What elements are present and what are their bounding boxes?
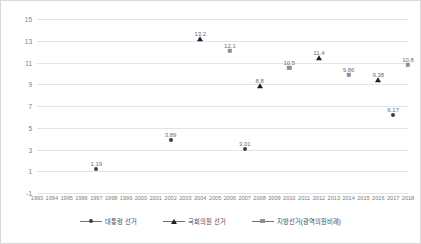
x-axis-tick-label: 2004	[194, 195, 206, 201]
square-marker-icon	[346, 73, 350, 77]
x-axis-tick-label: 2017	[387, 195, 399, 201]
x-axis-line	[37, 193, 408, 194]
x-axis-tick-label: 2018	[402, 195, 414, 201]
square-marker-icon	[228, 48, 232, 52]
data-point: 1.19	[92, 165, 100, 173]
gridline	[37, 106, 408, 107]
y-axis-tick-label: 15	[25, 16, 32, 23]
x-axis-tick-label: 2015	[357, 195, 369, 201]
legend-item[interactable]: 대통령 선거	[80, 217, 137, 226]
data-point-label: 12.1	[224, 43, 236, 49]
legend-item[interactable]: 지방선거(광역의원비례)	[252, 217, 341, 226]
data-point: 8.8	[256, 82, 264, 90]
x-axis-tick-label: 2014	[342, 195, 354, 201]
legend-marker	[80, 221, 102, 222]
gridline	[37, 84, 408, 85]
triangle-marker-icon	[197, 36, 203, 41]
x-axis-tick-label: 2008	[253, 195, 265, 201]
triangle-marker-icon	[171, 219, 177, 224]
x-axis-tick-label: 2005	[209, 195, 221, 201]
x-axis-tick-label: 2009	[268, 195, 280, 201]
data-point: 6.17	[389, 111, 397, 119]
x-axis-tick-label: 2010	[283, 195, 295, 201]
triangle-marker-icon	[375, 77, 381, 82]
x-axis-tick-labels: 1993199419951996199719981999200020012002…	[37, 195, 408, 209]
x-axis-tick-label: 2011	[298, 195, 310, 201]
y-axis-tick-label: 7	[28, 103, 32, 110]
data-point: 10.5	[285, 64, 293, 72]
data-point: 12.1	[226, 47, 234, 55]
circle-marker-icon	[169, 138, 173, 142]
data-point-label: 9.86	[343, 67, 355, 73]
y-axis-tick-label: 11	[25, 59, 32, 66]
square-marker-icon	[260, 219, 264, 223]
x-axis-tick-label: 2000	[135, 195, 147, 201]
square-marker-icon	[287, 66, 291, 70]
square-marker-icon	[406, 62, 410, 66]
data-point: 3.89	[167, 136, 175, 144]
data-point-label: 8.8	[255, 78, 263, 84]
y-axis-tick-label: 1	[28, 168, 32, 175]
data-point: 11.4	[315, 54, 323, 62]
x-axis-tick-label: 1994	[46, 195, 58, 201]
plot-area: 15131197531-1 1.193.893.016.1713.28.811.…	[37, 19, 408, 193]
circle-marker-icon	[89, 219, 93, 223]
x-axis-tick-label: 2006	[224, 195, 236, 201]
gridline	[37, 41, 408, 42]
x-axis-tick-label: 2012	[313, 195, 325, 201]
data-point: 10.8	[404, 61, 412, 69]
y-axis-tick-label: 13	[25, 37, 32, 44]
x-axis-tick-label: 1993	[31, 195, 43, 201]
triangle-marker-icon	[257, 84, 263, 89]
y-axis-tick-label: 3	[28, 146, 32, 153]
data-point: 9.38	[374, 76, 382, 84]
x-axis-tick-label: 1999	[120, 195, 132, 201]
data-point-label: 10.5	[283, 60, 295, 66]
gridline	[37, 150, 408, 151]
legend-marker	[252, 221, 274, 222]
x-axis-tick-label: 1997	[90, 195, 102, 201]
legend-marker	[163, 221, 185, 222]
x-axis-tick-label: 1998	[105, 195, 117, 201]
data-point: 9.86	[345, 71, 353, 79]
triangle-marker-icon	[316, 55, 322, 60]
data-point: 13.2	[196, 35, 204, 43]
data-point-label: 10.8	[402, 57, 414, 63]
circle-marker-icon	[243, 147, 247, 151]
legend-label: 대통령 선거	[105, 217, 137, 226]
chart-container: 15131197531-1 1.193.893.016.1713.28.811.…	[0, 0, 421, 244]
legend-label: 지방선거(광역의원비례)	[277, 217, 341, 226]
circle-marker-icon	[391, 113, 395, 117]
x-axis-tick-label: 2002	[164, 195, 176, 201]
data-point-label: 6.17	[387, 107, 399, 113]
x-axis-tick-label: 2003	[179, 195, 191, 201]
data-point-label: 3.01	[239, 141, 251, 147]
data-point-label: 9.38	[372, 72, 384, 78]
y-axis-tick-label: 5	[28, 124, 32, 131]
legend-label: 국회의원 선거	[188, 217, 226, 226]
legend-item[interactable]: 국회의원 선거	[163, 217, 226, 226]
x-axis-tick-label: 1996	[75, 195, 87, 201]
gridline	[37, 128, 408, 129]
x-axis-tick-label: 2016	[372, 195, 384, 201]
gridline	[37, 63, 408, 64]
y-axis-tick-label: 9	[28, 81, 32, 88]
data-point-label: 11.4	[313, 50, 324, 56]
data-point-label: 1.19	[91, 161, 103, 167]
gridline	[37, 19, 408, 20]
x-axis-tick-label: 2001	[149, 195, 161, 201]
data-point: 3.01	[241, 145, 249, 153]
x-axis-tick-label: 2007	[239, 195, 251, 201]
x-axis-tick-label: 2013	[328, 195, 340, 201]
data-point-label: 3.89	[165, 132, 177, 138]
chart-legend: 대통령 선거국회의원 선거지방선거(광역의원비례)	[1, 213, 420, 229]
data-point-label: 13.2	[194, 31, 206, 37]
circle-marker-icon	[94, 167, 98, 171]
x-axis-tick-label: 1995	[60, 195, 72, 201]
